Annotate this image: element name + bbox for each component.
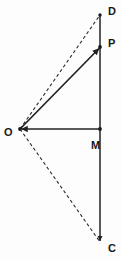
geometry-diagram: D P O M C — [0, 0, 122, 260]
point-label-o: O — [4, 126, 13, 138]
dashed-line-o-to-c — [20, 129, 100, 242]
geometry-canvas: D P O M C — [0, 0, 122, 260]
point-marker-m — [98, 127, 102, 131]
vector-o-to-p — [20, 49, 99, 130]
point-marker-o — [18, 127, 22, 131]
point-label-c: C — [108, 242, 116, 254]
point-label-p: P — [108, 37, 115, 49]
point-marker-d — [98, 13, 101, 16]
dashed-line-o-to-d — [20, 15, 100, 129]
point-label-d: D — [108, 5, 116, 17]
point-marker-p — [98, 45, 102, 49]
segments-group — [20, 15, 100, 242]
point-label-m: M — [91, 139, 100, 151]
